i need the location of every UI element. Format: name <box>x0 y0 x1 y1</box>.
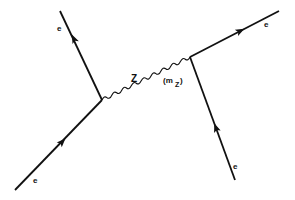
electron-line-top-left <box>60 11 102 100</box>
label-mass-open: (m <box>163 76 173 85</box>
electron-line-bottom-right <box>190 57 235 180</box>
arrow-icon-bottom-right <box>211 122 221 133</box>
label-z-mass: (m Z ) <box>163 76 183 88</box>
label-z-boson: Z <box>131 73 137 84</box>
label-e-bottom-right: e <box>233 162 238 171</box>
label-e-top-left: e <box>57 24 62 33</box>
electron-line-top-right <box>190 11 279 57</box>
feynman-diagram: e e e e Z (m Z ) <box>0 0 295 200</box>
z-boson-propagator <box>102 57 190 100</box>
electron-line-bottom-left <box>15 100 102 190</box>
label-e-top-right: e <box>264 20 269 29</box>
label-e-bottom-left: e <box>33 176 38 185</box>
label-mass-close: ) <box>180 76 183 85</box>
arrow-icon-top-right <box>235 26 246 36</box>
